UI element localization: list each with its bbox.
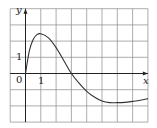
- x-axis-label: x: [143, 76, 149, 86]
- grid-lines: [10, 9, 148, 122]
- axes: [10, 9, 148, 122]
- y-tick-label-1: 1: [16, 52, 22, 62]
- x-tick-label-1: 1: [38, 76, 44, 86]
- function-graph: [0, 0, 157, 128]
- y-axis-label: y: [16, 5, 22, 15]
- origin-label: 0: [16, 75, 22, 85]
